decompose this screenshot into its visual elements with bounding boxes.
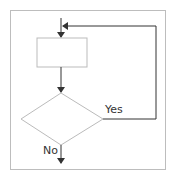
flowchart: Yes No [0,0,176,183]
yes-label: Yes [104,103,123,116]
process-box [37,38,87,67]
no-label: No [43,144,58,157]
decision-diamond [21,93,103,145]
